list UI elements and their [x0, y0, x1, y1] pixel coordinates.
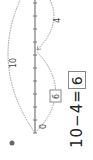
zero-label: 0 — [39, 124, 48, 129]
diagram-stage: 0 10 4 6 10−4=6 — [0, 0, 93, 160]
equation: 10−4=6 — [68, 71, 86, 148]
bullet-dot-icon — [10, 141, 15, 146]
arc-label-10: 10 — [9, 58, 18, 68]
arc-label-6: 6 — [52, 94, 61, 99]
equals-sign: = — [68, 89, 86, 103]
minus-sign: − — [68, 113, 86, 127]
arc-10-to-6 — [37, 0, 54, 50]
operand-a: 10 — [68, 127, 86, 148]
arc-label-4: 4 — [53, 18, 62, 23]
result-box: 6 — [68, 71, 86, 89]
operand-b: 4 — [68, 103, 86, 114]
